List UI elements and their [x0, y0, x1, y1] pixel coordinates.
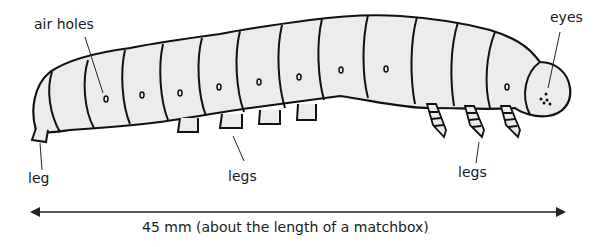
label-eyes: eyes	[550, 9, 583, 25]
larva-diagram	[0, 0, 611, 247]
label-legs-front: legs	[458, 164, 487, 180]
rear-leg	[32, 128, 48, 142]
label-leg: leg	[28, 170, 49, 186]
scale-caption: 45 mm (about the length of a matchbox)	[142, 219, 429, 235]
label-legs-middle: legs	[228, 168, 257, 184]
scale-arrow	[30, 207, 566, 217]
label-air-holes: air holes	[34, 16, 94, 32]
